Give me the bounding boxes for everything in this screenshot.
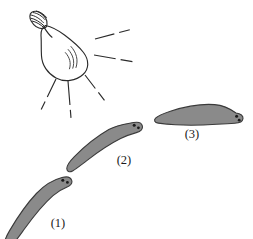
light-bulb — [30, 11, 140, 118]
seal-1-nostril — [66, 181, 69, 184]
seal-1-label: (1) — [51, 216, 66, 230]
seal-2-label: (2) — [117, 153, 132, 167]
seal-1: (1) — [4, 177, 71, 239]
seal-3-label: (3) — [185, 127, 200, 141]
seal-3-body — [155, 104, 243, 125]
figure-container: (1) (2) (3) — [0, 0, 253, 239]
seal-2: (2) — [67, 122, 143, 172]
light-ray-right-upper — [95, 27, 140, 39]
light-ray-down-center — [68, 81, 71, 118]
bulb-base-hatching — [31, 11, 47, 28]
seal-3: (3) — [155, 104, 243, 140]
seal-3-nostril — [238, 119, 241, 122]
seal-3-eye — [235, 115, 238, 118]
diagram-canvas: (1) (2) (3) — [0, 0, 253, 239]
bulb-neck — [44, 27, 52, 37]
light-ray-right-lower — [94, 55, 140, 63]
light-rays — [41, 27, 140, 118]
seal-2-nostril — [137, 126, 140, 129]
bulb-filament-highlight — [65, 47, 77, 69]
seal-1-eye — [61, 179, 64, 182]
light-ray-down-left — [41, 79, 56, 110]
seal-2-eye — [133, 124, 136, 127]
light-ray-down-right — [85, 75, 108, 105]
